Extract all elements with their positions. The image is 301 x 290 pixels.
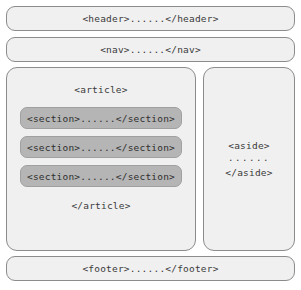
nav-label: <nav>......</nav> — [100, 44, 201, 55]
section-box: <section>......</section> — [20, 107, 182, 129]
section-box: <section>......</section> — [20, 165, 182, 187]
nav-box: <nav>......</nav> — [6, 37, 295, 62]
section-label: <section>......</section> — [27, 113, 175, 124]
footer-box: <footer>......</footer> — [6, 256, 295, 281]
aside-close-tag-label: </aside> — [225, 166, 272, 180]
header-box: <header>......</header> — [6, 6, 295, 31]
article-open-tag-label: <article> — [74, 84, 127, 95]
article-close-tag-label: </article> — [71, 200, 130, 211]
aside-open-tag-label: <aside> — [228, 139, 269, 153]
html5-layout-diagram: <header>......</header> <nav>......</nav… — [0, 0, 301, 290]
aside-box: <aside> ...... </aside> — [203, 67, 295, 251]
footer-label: <footer>......</footer> — [82, 263, 218, 274]
header-label: <header>......</header> — [82, 13, 218, 24]
section-box: <section>......</section> — [20, 136, 182, 158]
section-label: <section>......</section> — [27, 142, 175, 153]
section-list: <section>......</section> <section>.....… — [7, 107, 195, 187]
article-box: <article> <section>......</section> <sec… — [6, 67, 196, 251]
section-label: <section>......</section> — [27, 171, 175, 182]
main-content-row: <article> <section>......</section> <sec… — [6, 67, 295, 251]
aside-dots-label: ...... — [228, 152, 270, 165]
